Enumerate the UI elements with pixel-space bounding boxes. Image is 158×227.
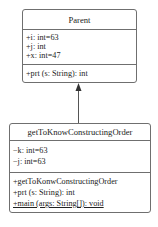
attribute: −k: int=63	[13, 145, 150, 156]
operation: +getToKonwConstructingOrder	[13, 176, 150, 187]
class-box-parent[interactable]: Parent +i: int=63 +j: int +x: int=47 +pr…	[22, 9, 137, 83]
operation: +prt (s: String): int	[26, 65, 136, 82]
operations-compartment: +prt (s: String): int	[23, 65, 136, 82]
attribute: −j: int=63	[13, 156, 150, 167]
operation: +prt (s: String): int	[13, 187, 150, 198]
class-name: Parent	[23, 10, 136, 30]
attribute: +x: int=47	[26, 51, 136, 60]
class-name: getToKnowConstructingOrder	[10, 124, 150, 141]
attribute: +i: int=63	[26, 33, 136, 42]
class-box-child[interactable]: getToKnowConstructingOrder −k: int=63 −j…	[9, 123, 151, 213]
attributes-compartment: +i: int=63 +j: int +x: int=47	[23, 30, 136, 65]
attribute: +j: int	[26, 42, 136, 51]
operations-compartment: +getToKonwConstructingOrder +prt (s: Str…	[10, 173, 150, 212]
attributes-compartment: −k: int=63 −j: int=63	[10, 141, 150, 173]
static-operation: +main (args: String[]): void	[13, 198, 150, 209]
arrowhead-icon	[76, 83, 82, 91]
